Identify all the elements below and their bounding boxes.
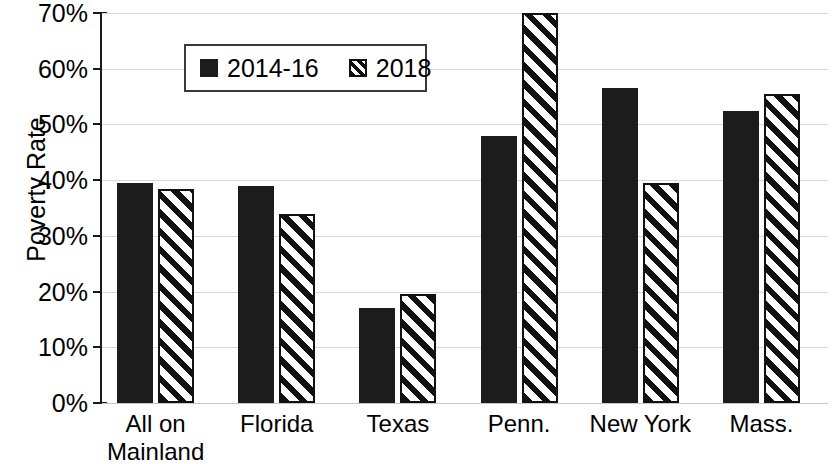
y-axis-tick-label: 20%	[38, 277, 88, 306]
legend: 2014-16 2018	[184, 44, 427, 92]
x-axis-tick-label: Mass.	[681, 410, 833, 438]
gridline	[101, 13, 828, 14]
bar	[158, 189, 194, 404]
y-axis-tick-label: 50%	[38, 110, 88, 139]
legend-label-2018: 2018	[376, 54, 432, 83]
y-axis-tick-label: 70%	[38, 0, 88, 28]
x-axis-label-group: Mass.	[681, 410, 833, 438]
bar	[359, 308, 395, 403]
bar	[602, 88, 638, 403]
bar	[723, 111, 759, 404]
y-axis-tick	[93, 291, 102, 293]
bar	[764, 94, 800, 403]
solid-square-icon	[200, 59, 218, 77]
y-axis-tick-label: 30%	[38, 221, 88, 250]
hatched-square-icon	[349, 59, 367, 77]
y-axis-tick	[93, 346, 102, 348]
y-axis-tick-label: 60%	[38, 54, 88, 83]
y-axis-tick-label: 10%	[38, 333, 88, 362]
bar	[643, 183, 679, 403]
x-axis-tick-label: Mainland	[76, 438, 236, 464]
legend-label-2014-16: 2014-16	[227, 54, 319, 83]
x-axis-baseline	[101, 403, 828, 404]
y-axis-tick	[93, 12, 102, 14]
y-axis-tick	[93, 235, 102, 237]
bar	[238, 186, 274, 403]
legend-entry-2018: 2018	[349, 54, 432, 83]
legend-entry-2014-16: 2014-16	[200, 54, 319, 83]
y-axis-tick	[93, 179, 102, 181]
bar	[522, 13, 558, 403]
gridline	[101, 236, 828, 237]
gridline	[101, 180, 828, 181]
gridline	[101, 124, 828, 125]
y-axis-tick	[93, 402, 102, 404]
bar	[117, 183, 153, 403]
y-axis-tick-label: 40%	[38, 166, 88, 195]
bar	[481, 136, 517, 403]
gridline	[101, 292, 828, 293]
y-axis-tick	[93, 123, 102, 125]
y-axis-tick	[93, 68, 102, 70]
bar	[400, 294, 436, 403]
gridline	[101, 347, 828, 348]
bar	[279, 214, 315, 403]
